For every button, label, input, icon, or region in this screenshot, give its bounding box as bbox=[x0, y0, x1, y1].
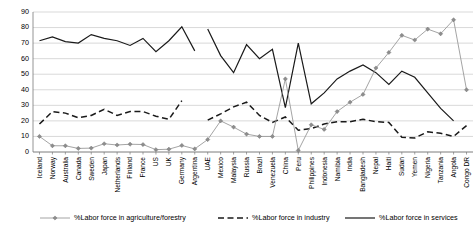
x-axis-tick-label: Haiti bbox=[385, 156, 392, 170]
x-axis-labels: IcelandNorwayAustraliaCanadaSwedenJapanN… bbox=[36, 152, 471, 193]
x-axis-tick-label: Russia bbox=[243, 157, 250, 177]
y-axis-tick-label: 40 bbox=[21, 85, 29, 94]
agriculture-data-point bbox=[231, 125, 235, 129]
y-axis-labels: 0102030405060708090 bbox=[21, 7, 29, 156]
legend-item-label: %Labor force in services bbox=[379, 213, 458, 222]
x-axis-tick-label: Nigeria bbox=[424, 157, 432, 178]
y-axis-tick-label: 90 bbox=[21, 7, 29, 16]
agriculture-data-point bbox=[167, 147, 171, 151]
industry-line-segment bbox=[39, 101, 181, 124]
agriculture-data-point bbox=[270, 134, 274, 138]
gridlines-group bbox=[33, 12, 473, 152]
agriculture-data-point bbox=[141, 142, 145, 146]
y-axis-tick-label: 60 bbox=[21, 54, 29, 63]
x-axis-tick-label: Sudan bbox=[398, 157, 405, 176]
y-axis-tick-label: 0 bbox=[25, 147, 29, 156]
y-axis-tick-label: 80 bbox=[21, 22, 29, 31]
x-axis-tick-label: Brazil bbox=[256, 156, 263, 173]
x-axis-tick-label: Angola bbox=[450, 157, 458, 178]
agriculture-data-point bbox=[361, 92, 365, 96]
x-axis-tick-label: Venezuela bbox=[269, 157, 276, 188]
x-axis-tick-label: Australia bbox=[62, 157, 69, 183]
x-axis-tick-label: Mexico bbox=[217, 157, 224, 178]
x-axis-tick-label: Sweden bbox=[88, 157, 95, 181]
agriculture-data-point bbox=[180, 143, 184, 147]
agriculture-line bbox=[39, 20, 466, 151]
agriculture-data-point bbox=[464, 88, 468, 92]
series-services-line bbox=[39, 27, 453, 121]
labor-force-line-chart: 0102030405060708090 IcelandNorwayAustral… bbox=[0, 0, 476, 236]
agriculture-data-point bbox=[102, 142, 106, 146]
legend-marker-agriculture bbox=[53, 216, 57, 220]
x-axis-tick-label: Yemen bbox=[411, 157, 418, 178]
agriculture-data-point bbox=[244, 132, 248, 136]
x-axis-tick-label: Malaysia bbox=[230, 157, 238, 183]
x-axis-tick-label: Namibia bbox=[334, 157, 341, 182]
y-axis-tick-label: 50 bbox=[21, 69, 29, 78]
x-axis-tick-label: UK bbox=[165, 156, 172, 166]
x-axis-tick-label: Netherlands bbox=[114, 156, 121, 192]
agriculture-data-point bbox=[76, 146, 80, 150]
x-axis-tick-label: Iceland bbox=[36, 157, 43, 179]
agriculture-data-point bbox=[115, 143, 119, 147]
x-axis-tick-label: Tanzania bbox=[437, 157, 444, 184]
legend-item-label: %Labor force in industry bbox=[252, 213, 330, 222]
x-axis-tick-label: Canada bbox=[75, 157, 82, 180]
x-axis-tick-label: China bbox=[282, 157, 289, 175]
x-axis-tick-label: Philippines bbox=[308, 156, 316, 189]
x-axis-tick-label: Peru bbox=[295, 157, 302, 171]
services-line-segment bbox=[39, 27, 194, 52]
agriculture-data-point bbox=[309, 123, 313, 127]
y-axis-tick-label: 10 bbox=[21, 131, 29, 140]
x-axis-tick-label: Argentina bbox=[191, 157, 199, 186]
x-axis-tick-label: Japan bbox=[101, 157, 109, 175]
x-axis-tick-label: UAE bbox=[204, 156, 211, 170]
x-axis-tick-label: France bbox=[139, 157, 146, 178]
series-industry-line bbox=[39, 101, 466, 138]
y-axis-tick-label: 30 bbox=[21, 100, 29, 109]
x-axis-tick-label: Congo DR bbox=[463, 157, 471, 188]
x-axis-tick-label: Nepal bbox=[372, 156, 380, 174]
x-axis-tick-label: Finland bbox=[126, 157, 133, 179]
x-axis-tick-label: India bbox=[346, 157, 353, 172]
agriculture-data-point bbox=[154, 148, 158, 152]
axis-lines bbox=[33, 12, 473, 152]
legend-item-label: %Labor force in agriculture/forestry bbox=[74, 213, 186, 222]
agriculture-data-point bbox=[283, 77, 287, 81]
chart-container: 0102030405060708090 IcelandNorwayAustral… bbox=[0, 0, 476, 236]
y-axis-tick-label: 20 bbox=[21, 116, 29, 125]
x-axis-tick-label: Bangladesh bbox=[359, 157, 367, 192]
x-axis-tick-label: Germany bbox=[178, 156, 186, 184]
chart-legend: %Labor force in agriculture/forestry%Lab… bbox=[40, 213, 458, 222]
x-axis-tick-label: US bbox=[152, 156, 159, 166]
agriculture-data-point bbox=[128, 142, 132, 146]
agriculture-data-point bbox=[63, 144, 67, 148]
y-axis-tick-label: 70 bbox=[21, 38, 29, 47]
agriculture-data-point bbox=[257, 134, 261, 138]
x-axis-tick-label: Norway bbox=[49, 156, 57, 179]
agriculture-data-point bbox=[89, 146, 93, 150]
x-axis-tick-label: Indonesia bbox=[321, 157, 328, 186]
